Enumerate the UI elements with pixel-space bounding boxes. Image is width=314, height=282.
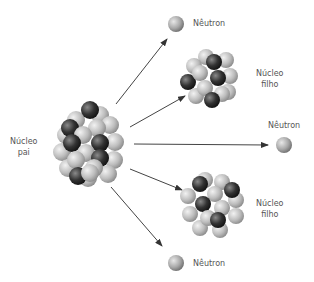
label-line: Núcleo [256,198,284,209]
arrow-to-daughter-bottom [130,169,182,190]
label-line: filho [256,209,284,220]
arrow-to-daughter-top [130,96,185,127]
label-line: Núcleo [256,68,284,79]
label-neutron-right: Nêutron [268,120,300,131]
neutron-right [276,137,292,153]
fission-diagram [0,0,314,282]
neutron-top [168,16,184,32]
neutron-bottom [168,255,184,271]
daughter-nucleus-top [180,49,238,108]
label-daughter-nucleus-bottom: Núcleo filho [256,198,284,220]
label-daughter-nucleus-top: Núcleo filho [256,68,284,90]
arrow-to-neutron-right [134,144,268,145]
label-line: filho [256,79,284,90]
arrow-to-neutron-bottom [111,187,162,246]
daughter-nucleus-bottom [180,172,244,238]
label-line: Núcleo [10,136,38,147]
label-neutron-top: Nêutron [193,18,225,29]
label-line: pai [10,147,38,158]
label-neutron-bottom: Nêutron [193,258,225,269]
parent-nucleus [53,101,124,187]
label-parent-nucleus: Núcleo pai [10,136,38,158]
arrow-to-neutron-top [116,39,167,104]
